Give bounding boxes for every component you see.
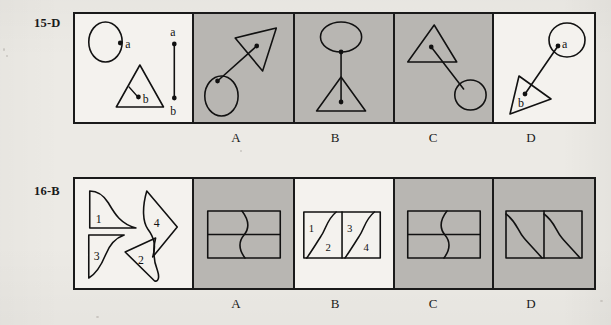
option-panel-16-D[interactable] (494, 179, 594, 288)
scan-speck (3, 48, 5, 51)
row-label-15: 15-D (34, 16, 61, 31)
option-letter-16-B: B (323, 296, 347, 312)
option-figure-15-A (194, 14, 293, 122)
svg-text:a: a (170, 25, 176, 39)
svg-text:b: b (170, 104, 176, 118)
svg-text:a: a (562, 37, 568, 51)
scan-speck (600, 300, 603, 302)
option-letter-15-D: D (519, 130, 543, 146)
option-letter-15-C: C (421, 130, 445, 146)
svg-text:3: 3 (347, 222, 353, 234)
option-panel-16-B[interactable]: 1 2 3 4 (295, 179, 395, 288)
option-letter-16-C: C (421, 296, 445, 312)
svg-text:2: 2 (138, 253, 144, 267)
scan-speck (6, 55, 8, 57)
option-letter-16-D: D (519, 296, 543, 312)
option-panel-16-C[interactable] (395, 179, 494, 288)
option-panel-16-A[interactable] (194, 179, 295, 288)
worksheet-page: 15-D a b a (0, 0, 611, 325)
option-panel-15-D[interactable]: a b (494, 14, 594, 122)
option-figure-15-B (295, 14, 393, 122)
svg-text:1: 1 (96, 212, 102, 226)
option-figure-16-D (494, 179, 594, 288)
option-figure-16-A (194, 179, 293, 288)
option-letter-15-A: A (224, 130, 248, 146)
option-letter-15-B: B (323, 130, 347, 146)
option-figure-15-D: a b (494, 14, 594, 122)
scan-speck (240, 150, 242, 152)
option-figure-15-C (395, 14, 492, 122)
option-panel-15-A[interactable] (194, 14, 295, 122)
option-figure-16-B: 1 2 3 4 (295, 179, 393, 288)
svg-text:4: 4 (364, 241, 370, 253)
option-panel-15-B[interactable] (295, 14, 395, 122)
svg-text:4: 4 (154, 216, 160, 230)
svg-text:b: b (143, 92, 149, 106)
prompt-figure-15: a b a b (75, 14, 192, 122)
option-figure-16-C (395, 179, 492, 288)
prompt-panel-16[interactable]: 1 3 4 2 (75, 179, 194, 288)
option-letter-16-A: A (224, 296, 248, 312)
svg-text:2: 2 (325, 241, 330, 253)
answer-strip-16: 1 3 4 2 (73, 177, 596, 290)
scan-speck (96, 316, 99, 318)
answer-strip-15: a b a b (73, 12, 596, 124)
prompt-figure-16: 1 3 4 2 (75, 179, 192, 288)
option-panel-15-C[interactable] (395, 14, 494, 122)
svg-text:1: 1 (309, 222, 314, 234)
svg-text:b: b (518, 96, 524, 110)
prompt-panel-15[interactable]: a b a b (75, 14, 194, 122)
row-label-16: 16-B (34, 184, 60, 199)
svg-text:3: 3 (94, 249, 100, 263)
svg-text:a: a (125, 37, 131, 51)
